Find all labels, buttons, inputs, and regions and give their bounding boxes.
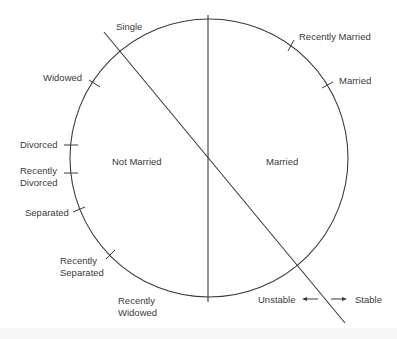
scan-edge-band <box>0 328 397 339</box>
label-recently-separated-line1: Recently <box>60 255 97 266</box>
label-single: Single <box>116 21 142 32</box>
arrow-left-icon <box>302 297 318 301</box>
label-widowed: Widowed <box>43 72 82 83</box>
label-married: Married <box>339 75 371 86</box>
label-divorced: Divorced <box>20 139 58 150</box>
label-recently-separated-line2: Separated <box>60 267 104 278</box>
label-recently-widowed-line2: Widowed <box>118 307 157 318</box>
label-stable: Stable <box>355 294 382 305</box>
label-recently-divorced-line1: Recently <box>20 165 57 176</box>
marital-status-diagram: Not Married Married Single Recently Marr… <box>0 0 397 339</box>
label-recently-divorced-line2: Divorced <box>20 177 58 188</box>
label-recently-married: Recently Married <box>299 31 371 42</box>
region-label-not-married: Not Married <box>112 156 162 167</box>
label-separated: Separated <box>25 207 69 218</box>
tick-recently-married <box>288 40 294 51</box>
label-unstable: Unstable <box>258 294 296 305</box>
region-label-married: Married <box>266 156 298 167</box>
tick-married <box>322 82 333 88</box>
tick-recently-separated <box>106 250 115 259</box>
arrow-right-icon <box>331 297 347 301</box>
label-recently-widowed-line1: Recently <box>118 295 155 306</box>
